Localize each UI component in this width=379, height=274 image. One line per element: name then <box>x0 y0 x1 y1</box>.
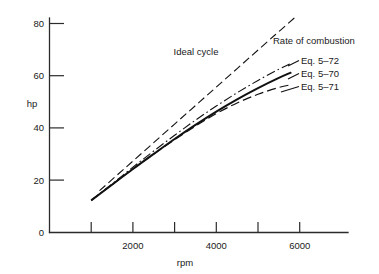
annotation-rate-of-combustion: Rate of combustion <box>273 35 355 46</box>
y-axis-title: hp <box>27 98 38 109</box>
leader-line-eq-5-71 <box>281 87 299 93</box>
annotation-eq-5-70: Eq. 5–70 <box>301 68 339 79</box>
y-tick-label-60: 60 <box>33 70 44 81</box>
y-tick-label-0: 0 <box>39 227 44 238</box>
x-tick-label-4000: 4000 <box>206 240 227 251</box>
line-chart: 80 60 40 20 0 2000 4000 6000 hp rpm Idea… <box>0 0 379 274</box>
figure-container: 80 60 40 20 0 2000 4000 6000 hp rpm Idea… <box>0 0 379 274</box>
x-tick-label-2000: 2000 <box>122 240 143 251</box>
series-eq-5-72 <box>91 63 291 200</box>
x-tick-label-6000: 6000 <box>289 240 310 251</box>
leader-line-eq-5-70 <box>288 74 299 80</box>
y-tick-label-80: 80 <box>33 18 44 29</box>
leader-line-eq-5-72 <box>288 61 299 67</box>
series-eq-5-71 <box>91 85 291 201</box>
x-axis-title: rpm <box>177 257 193 268</box>
annotation-eq-5-72: Eq. 5–72 <box>301 55 339 66</box>
annotation-ideal-cycle: Ideal cycle <box>174 46 219 57</box>
x-tick-marks <box>91 222 300 232</box>
series-group <box>91 17 295 200</box>
series-eq-5-70 <box>91 72 291 200</box>
annotation-eq-5-71: Eq. 5–71 <box>301 81 339 92</box>
y-tick-label-40: 40 <box>33 122 44 133</box>
series-ideal-cycle <box>100 17 296 191</box>
y-tick-label-20: 20 <box>33 175 44 186</box>
y-tick-marks <box>50 24 64 181</box>
